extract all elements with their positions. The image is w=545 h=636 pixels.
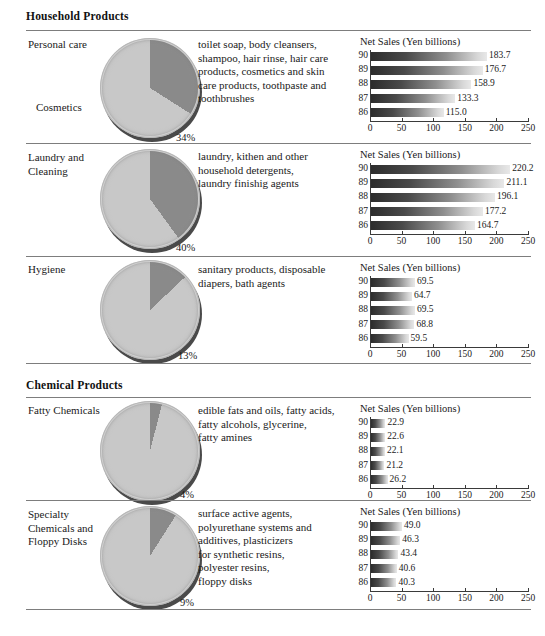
pie-percent-label: 9% bbox=[180, 597, 194, 608]
bar-category-label: 87 bbox=[348, 460, 368, 470]
x-axis-tick bbox=[496, 231, 497, 234]
bar-value-label: 176.7 bbox=[485, 64, 506, 74]
chart-title: Net Sales (Yen billions) bbox=[360, 506, 460, 517]
divider-rule bbox=[26, 30, 531, 31]
bar-row: 88196.1 bbox=[348, 191, 538, 205]
bar-category-label: 86 bbox=[348, 333, 368, 343]
pie-chart-personal-care bbox=[100, 38, 204, 142]
x-axis-tick-label: 50 bbox=[390, 236, 414, 246]
bar-category-label: 90 bbox=[348, 520, 368, 530]
x-axis-tick-label: 250 bbox=[516, 349, 540, 359]
bar-value-label: 40.3 bbox=[398, 577, 415, 587]
bar bbox=[371, 52, 487, 61]
bar-category-label: 89 bbox=[348, 290, 368, 300]
bar bbox=[371, 80, 471, 89]
x-axis-tick bbox=[370, 588, 371, 591]
category-label-top: Specialty Chemicals and Floppy Disks bbox=[28, 508, 93, 549]
x-axis-tick bbox=[528, 485, 529, 488]
bar-category-label: 89 bbox=[348, 177, 368, 187]
bar bbox=[371, 550, 398, 559]
bar-value-label: 26.2 bbox=[390, 474, 407, 484]
description-text: sanitary products, disposable diapers, b… bbox=[198, 263, 363, 290]
bar-value-label: 158.9 bbox=[473, 78, 494, 88]
x-axis-tick-label: 100 bbox=[421, 349, 445, 359]
bar-value-label: 22.9 bbox=[387, 417, 404, 427]
bar-category-label: 90 bbox=[348, 417, 368, 427]
bar bbox=[371, 578, 396, 587]
group-header-household: Household Products bbox=[26, 10, 129, 22]
bar-value-label: 22.6 bbox=[387, 431, 404, 441]
bar-value-label: 177.2 bbox=[485, 206, 506, 216]
bar bbox=[371, 475, 388, 484]
bar-category-label: 86 bbox=[348, 474, 368, 484]
bar-value-label: 164.7 bbox=[477, 220, 498, 230]
pie-percent-label: 40% bbox=[176, 242, 195, 253]
description-text: toilet soap, body cleansers, shampoo, ha… bbox=[198, 38, 363, 106]
x-axis-tick bbox=[496, 118, 497, 121]
bar-value-label: 40.6 bbox=[399, 563, 416, 573]
x-axis-tick-label: 150 bbox=[453, 349, 477, 359]
x-axis-tick bbox=[465, 485, 466, 488]
x-axis-tick-label: 50 bbox=[390, 490, 414, 500]
bar-value-label: 64.7 bbox=[414, 290, 431, 300]
x-axis-tick bbox=[528, 231, 529, 234]
bar-row: 86164.7 bbox=[348, 220, 538, 234]
bar-row: 90183.7 bbox=[348, 50, 538, 64]
bar-value-label: 220.2 bbox=[512, 163, 533, 173]
bar-category-label: 87 bbox=[348, 563, 368, 573]
x-axis-tick bbox=[370, 344, 371, 347]
bar-category-label: 87 bbox=[348, 206, 368, 216]
divider-rule bbox=[26, 609, 531, 610]
product-row-personal-care: Personal care Cosmetics 34% toilet soap,… bbox=[0, 34, 545, 144]
bar-value-label: 21.2 bbox=[386, 460, 403, 470]
pie-disc bbox=[102, 40, 198, 136]
x-axis-tick-label: 200 bbox=[484, 490, 508, 500]
bar bbox=[371, 278, 415, 287]
bar-value-label: 22.1 bbox=[387, 445, 404, 455]
bar-row: 8843.4 bbox=[348, 548, 538, 562]
x-axis-tick-label: 250 bbox=[516, 490, 540, 500]
product-row-fatty-chemicals: Fatty Chemicals 4% edible fats and oils,… bbox=[0, 401, 545, 499]
x-axis-tick-label: 0 bbox=[358, 490, 382, 500]
bar-category-label: 89 bbox=[348, 431, 368, 441]
bar-row: 8740.6 bbox=[348, 563, 538, 577]
x-axis-tick-label: 200 bbox=[484, 123, 508, 133]
x-axis-tick bbox=[433, 231, 434, 234]
x-axis-tick-label: 0 bbox=[358, 593, 382, 603]
bar-category-label: 90 bbox=[348, 276, 368, 286]
x-axis-tick bbox=[496, 485, 497, 488]
pie-slice-divider bbox=[102, 151, 198, 247]
x-axis-tick bbox=[433, 588, 434, 591]
bar-row: 8922.6 bbox=[348, 431, 538, 445]
bar bbox=[371, 193, 495, 202]
bar-row: 8659.5 bbox=[348, 333, 538, 347]
bar bbox=[371, 320, 414, 329]
bar-row: 9022.9 bbox=[348, 417, 538, 431]
pie-percent-label: 13% bbox=[178, 350, 197, 361]
x-axis-line bbox=[370, 121, 529, 122]
bar-category-label: 88 bbox=[348, 548, 368, 558]
x-axis-tick bbox=[402, 344, 403, 347]
product-row-hygiene: Hygiene 13% sanitary products, disposabl… bbox=[0, 260, 545, 362]
bar bbox=[371, 522, 402, 531]
x-axis-tick-label: 200 bbox=[484, 593, 508, 603]
x-axis-tick bbox=[496, 344, 497, 347]
chart-title: Net Sales (Yen billions) bbox=[360, 36, 460, 47]
x-axis-tick-label: 0 bbox=[358, 236, 382, 246]
bar-row: 9049.0 bbox=[348, 520, 538, 534]
x-axis-tick-label: 150 bbox=[453, 490, 477, 500]
x-axis-tick bbox=[402, 485, 403, 488]
category-label-top: Personal care bbox=[28, 38, 87, 52]
x-axis-tick-label: 150 bbox=[453, 123, 477, 133]
product-row-specialty-chemicals: Specialty Chemicals and Floppy Disks 9% … bbox=[0, 504, 545, 608]
bar-category-label: 86 bbox=[348, 107, 368, 117]
chart-title: Net Sales (Yen billions) bbox=[360, 149, 460, 160]
divider-rule bbox=[26, 397, 531, 398]
bar bbox=[371, 447, 385, 456]
x-axis-tick bbox=[370, 231, 371, 234]
bar-category-label: 89 bbox=[348, 534, 368, 544]
group-header-chemical: Chemical Products bbox=[26, 379, 123, 391]
bar-row: 8626.2 bbox=[348, 474, 538, 488]
pie-disc bbox=[102, 508, 198, 604]
bar-value-label: 115.0 bbox=[446, 107, 467, 117]
